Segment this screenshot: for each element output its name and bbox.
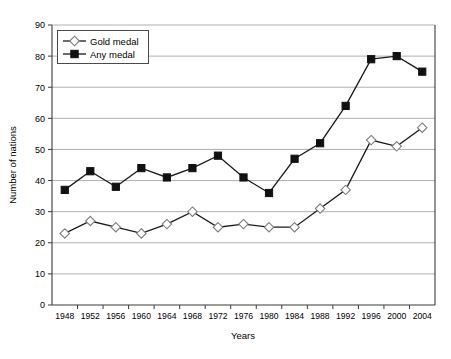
legend-label-gold-medal: Gold medal xyxy=(90,36,139,47)
y-tick-label-70: 70 xyxy=(35,83,45,93)
y-axis-title: Number of nations xyxy=(7,126,18,204)
y-tick-label-0: 0 xyxy=(40,300,45,310)
x-tick-label-2004: 2004 xyxy=(413,311,432,321)
x-tick-label-1952: 1952 xyxy=(81,311,100,321)
data-point-any-medal-1996 xyxy=(368,56,375,63)
data-point-any-medal-2004 xyxy=(419,68,426,75)
x-tick-label-1988: 1988 xyxy=(311,311,330,321)
legend-label-any-medal: Any medal xyxy=(90,49,135,60)
x-tick-label-1956: 1956 xyxy=(106,311,125,321)
data-point-any-medal-1948 xyxy=(61,186,68,193)
x-tick-label-1960: 1960 xyxy=(132,311,151,321)
data-point-any-medal-1968 xyxy=(189,165,196,172)
data-point-any-medal-1984 xyxy=(291,155,298,162)
y-tick-label-90: 90 xyxy=(35,20,45,30)
y-tick-label-20: 20 xyxy=(35,238,45,248)
x-tick-label-1984: 1984 xyxy=(285,311,304,321)
data-point-any-medal-1976 xyxy=(240,174,247,181)
y-tick-label-30: 30 xyxy=(35,207,45,217)
data-point-any-medal-2000 xyxy=(393,53,400,60)
data-point-any-medal-1964 xyxy=(163,174,170,181)
data-point-any-medal-1980 xyxy=(265,189,272,196)
x-tick-label-1964: 1964 xyxy=(157,311,176,321)
data-point-any-medal-1956 xyxy=(112,183,119,190)
y-tick-label-40: 40 xyxy=(35,176,45,186)
x-tick-label-1972: 1972 xyxy=(208,311,227,321)
data-point-any-medal-1988 xyxy=(317,140,324,147)
x-tick-label-1976: 1976 xyxy=(234,311,253,321)
line-chart: 0102030405060708090 19481952195619601964… xyxy=(0,0,451,359)
data-point-any-medal-1972 xyxy=(214,152,221,159)
figure-container: 0102030405060708090 19481952195619601964… xyxy=(0,0,451,359)
x-tick-label-1992: 1992 xyxy=(336,311,355,321)
data-point-any-medal-1992 xyxy=(342,102,349,109)
y-tick-label-50: 50 xyxy=(35,145,45,155)
y-tick-label-10: 10 xyxy=(35,269,45,279)
x-axis-title: Years xyxy=(231,330,255,341)
x-tick-labels-group: 1948195219561960196419681972197619801984… xyxy=(55,311,432,321)
x-tick-label-1996: 1996 xyxy=(362,311,381,321)
data-point-any-medal-1960 xyxy=(138,165,145,172)
chart-legend: Gold medal Any medal xyxy=(58,31,149,64)
y-tick-label-60: 60 xyxy=(35,114,45,124)
x-tick-label-1980: 1980 xyxy=(259,311,278,321)
x-tick-label-1948: 1948 xyxy=(55,311,74,321)
x-tick-label-2000: 2000 xyxy=(387,311,406,321)
x-tick-label-1968: 1968 xyxy=(183,311,202,321)
data-point-any-medal-1952 xyxy=(87,168,94,175)
y-tick-label-80: 80 xyxy=(35,52,45,62)
legend-marker-any-medal xyxy=(71,50,78,57)
